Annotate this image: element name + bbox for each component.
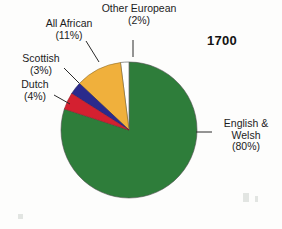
pie-label-all-african-percent: (11%) bbox=[28, 30, 110, 42]
pie-chart-figure: Other European (2%) All African (11%) Sc… bbox=[0, 0, 282, 229]
pie-label-dutch-percent: (4%) bbox=[6, 91, 64, 103]
pie-label-all-african-name: All African bbox=[28, 18, 110, 30]
pie-label-english-welsh-percent: (80%) bbox=[213, 141, 279, 153]
pie-label-english-welsh-name-line1: English & bbox=[213, 118, 279, 130]
chart-year-title: 1700 bbox=[207, 33, 237, 48]
pie-label-scottish: Scottish (3%) bbox=[6, 53, 76, 76]
pie-label-scottish-name: Scottish bbox=[6, 53, 76, 65]
leader-line-all-african bbox=[86, 41, 99, 62]
pie-label-scottish-percent: (3%) bbox=[6, 65, 76, 77]
pie-label-other-european-name: Other European bbox=[88, 3, 190, 15]
pie-label-english-welsh: English & Welsh (80%) bbox=[213, 118, 279, 153]
pie-label-dutch: Dutch (4%) bbox=[6, 79, 64, 102]
pie-label-all-african: All African (11%) bbox=[28, 18, 110, 41]
pie-label-dutch-name: Dutch bbox=[6, 79, 64, 91]
